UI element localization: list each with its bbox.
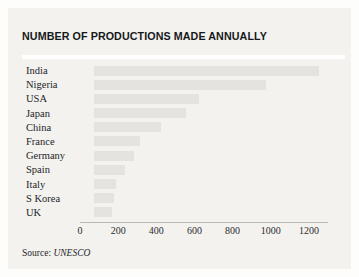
bar-track [94,80,347,90]
bar-row: USA [22,92,347,106]
bar-fill [94,207,112,217]
x-axis-tick-labels: 020040060080010001200 [80,225,328,241]
bar-fill [94,179,116,189]
x-tick-label: 600 [187,225,202,236]
source-value: UNESCO [53,248,90,258]
bar-track [94,193,347,203]
bar-row: Italy [22,178,347,192]
bar-category-label: China [26,121,51,135]
bar-track [94,136,347,146]
bar-chart-plot-area: IndiaNigeriaUSAJapanChinaFranceGermanySp… [22,64,347,222]
bar-track [94,94,347,104]
bar-fill [94,94,199,104]
bar-row: Spain [22,163,347,177]
bar-track [94,179,347,189]
bar-category-label: India [26,64,48,78]
bar-fill [94,193,114,203]
source-label: Source: [22,248,51,258]
bar-track [94,165,347,175]
bar-row: Germany [22,149,347,163]
x-tick-label: 1200 [299,225,319,236]
bar-row: Japan [22,107,347,121]
x-tick-label: 1000 [261,225,281,236]
bar-row: Nigeria [22,78,347,92]
bar-track [94,151,347,161]
page-title: NUMBER OF PRODUCTIONS MADE ANNUALLY [22,30,267,42]
bar-category-label: Japan [26,107,50,121]
bar-fill [94,122,161,132]
bar-fill [94,136,140,146]
bar-row: UK [22,206,347,220]
x-axis-line [80,222,328,223]
bar-track [94,66,347,76]
chart-card: NUMBER OF PRODUCTIONS MADE ANNUALLY Indi… [8,8,351,269]
bar-fill [94,165,125,175]
bar-category-label: Germany [26,149,65,163]
x-tick-label: 800 [225,225,240,236]
bar-category-label: Italy [26,178,45,192]
bar-category-label: Spain [26,163,50,177]
bar-category-label: UK [26,206,41,220]
bar-fill [94,66,319,76]
bar-fill [94,151,134,161]
bar-category-label: USA [26,92,47,106]
bar-track [94,108,347,118]
bar-category-label: Nigeria [26,78,58,92]
bar-row: S Korea [22,192,347,206]
bar-fill [94,108,186,118]
bar-track [94,122,347,132]
source-note: Source: UNESCO [22,248,90,258]
x-tick-label: 0 [78,225,83,236]
chart-figure: NUMBER OF PRODUCTIONS MADE ANNUALLY Indi… [0,0,359,277]
bar-category-label: S Korea [26,192,60,206]
title-divider [22,55,345,59]
bar-fill [94,80,266,90]
bar-row: China [22,121,347,135]
bar-track [94,207,347,217]
bar-row: India [22,64,347,78]
bar-row: France [22,135,347,149]
x-tick-label: 200 [111,225,126,236]
x-tick-label: 400 [149,225,164,236]
bar-category-label: France [26,135,55,149]
